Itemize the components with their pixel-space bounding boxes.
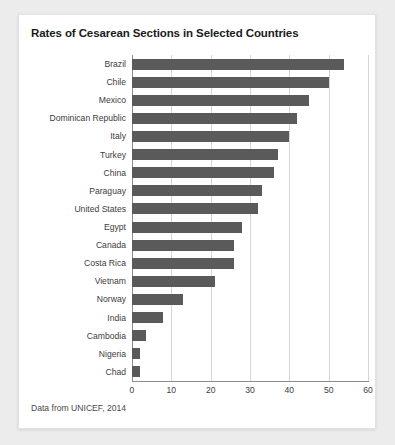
category-label: Costa Rica bbox=[84, 254, 126, 272]
bar-row: Italy bbox=[132, 127, 368, 145]
bar bbox=[132, 312, 163, 323]
bar-row: Paraguay bbox=[132, 182, 368, 200]
category-label: Chad bbox=[105, 363, 126, 381]
bar-row: Brazil bbox=[132, 55, 368, 73]
x-tick-label: 30 bbox=[245, 385, 255, 395]
category-label: Vietnam bbox=[95, 272, 126, 290]
category-label: Turkey bbox=[100, 146, 126, 164]
bar bbox=[132, 203, 258, 214]
bar bbox=[132, 258, 234, 269]
x-tick-label: 10 bbox=[167, 385, 177, 395]
category-label: Mexico bbox=[99, 91, 126, 109]
category-label: China bbox=[104, 164, 126, 182]
category-label: Paraguay bbox=[89, 182, 126, 200]
bar bbox=[132, 59, 344, 70]
bar-row: Vietnam bbox=[132, 272, 368, 290]
chart-card: Rates of Cesarean Sections in Selected C… bbox=[18, 14, 376, 429]
bar bbox=[132, 348, 140, 359]
bar-row: Norway bbox=[132, 290, 368, 308]
chart-title: Rates of Cesarean Sections in Selected C… bbox=[31, 27, 298, 39]
bar-row: Turkey bbox=[132, 146, 368, 164]
category-label: India bbox=[107, 309, 126, 327]
bar bbox=[132, 77, 329, 88]
x-tick-label: 20 bbox=[206, 385, 216, 395]
category-label: Nigeria bbox=[99, 345, 126, 363]
bar bbox=[132, 131, 289, 142]
bar-row: Chile bbox=[132, 73, 368, 91]
bar bbox=[132, 113, 297, 124]
x-tick-label: 60 bbox=[363, 385, 373, 395]
category-label: Norway bbox=[97, 290, 126, 308]
bar bbox=[132, 185, 262, 196]
bar bbox=[132, 149, 278, 160]
bar-row: China bbox=[132, 164, 368, 182]
category-label: Chile bbox=[106, 73, 126, 91]
bar bbox=[132, 366, 140, 377]
gridline-60 bbox=[368, 55, 369, 381]
bar-row: Cambodia bbox=[132, 327, 368, 345]
x-tick-label: 50 bbox=[324, 385, 334, 395]
category-label: Italy bbox=[110, 127, 126, 145]
bar-row: Mexico bbox=[132, 91, 368, 109]
bar bbox=[132, 276, 215, 287]
bar bbox=[132, 294, 183, 305]
chart-plot-region: BrazilChileMexicoDominican RepublicItaly… bbox=[19, 51, 377, 391]
bars-container: BrazilChileMexicoDominican RepublicItaly… bbox=[132, 55, 368, 381]
bar-row: Nigeria bbox=[132, 345, 368, 363]
category-label: Brazil bbox=[105, 55, 127, 73]
bar-row: Dominican Republic bbox=[132, 109, 368, 127]
source-note: Data from UNICEF, 2014 bbox=[31, 403, 126, 413]
bar-row: United States bbox=[132, 200, 368, 218]
bar bbox=[132, 95, 309, 106]
category-label: Canada bbox=[96, 236, 126, 254]
bar bbox=[132, 167, 274, 178]
bar-row: Canada bbox=[132, 236, 368, 254]
bar-row: Chad bbox=[132, 363, 368, 381]
bar bbox=[132, 222, 242, 233]
category-label: Cambodia bbox=[87, 327, 126, 345]
category-label: Dominican Republic bbox=[50, 109, 126, 127]
bar bbox=[132, 240, 234, 251]
x-tick-label: 0 bbox=[130, 385, 135, 395]
x-axis-line bbox=[132, 381, 369, 382]
bar-row: India bbox=[132, 309, 368, 327]
bar-row: Costa Rica bbox=[132, 254, 368, 272]
category-label: Egypt bbox=[104, 218, 126, 236]
category-label: United States bbox=[74, 200, 126, 218]
x-tick-label: 40 bbox=[285, 385, 295, 395]
bar-row: Egypt bbox=[132, 218, 368, 236]
bar bbox=[132, 330, 146, 341]
